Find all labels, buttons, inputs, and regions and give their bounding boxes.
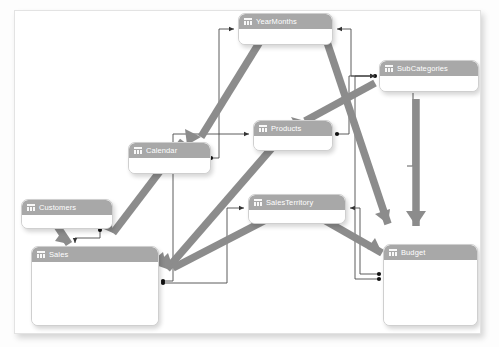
- table-header-sales: Sales: [32, 247, 158, 262]
- table-header-subcategories: SubCategories: [380, 61, 478, 76]
- table-icon: [259, 125, 267, 132]
- table-card-customers[interactable]: Customers: [21, 199, 113, 229]
- table-card-products[interactable]: Products: [253, 120, 333, 151]
- table-name-calendar: Calendar: [146, 147, 177, 155]
- table-body-salesterritory: [249, 210, 345, 223]
- table-card-budget[interactable]: Budget: [383, 244, 478, 326]
- table-icon: [244, 18, 252, 25]
- filter-arrow-group: [55, 40, 416, 269]
- table-body-customers: [22, 215, 112, 228]
- table-name-budget: Budget: [401, 249, 425, 257]
- table-header-products: Products: [254, 121, 332, 136]
- table-name-customers: Customers: [39, 204, 76, 212]
- table-header-salesterritory: SalesTerritory: [249, 195, 345, 210]
- table-body-sales: [32, 262, 158, 325]
- table-body-subcategories: [380, 76, 478, 91]
- table-card-salesterritory[interactable]: SalesTerritory: [248, 194, 346, 224]
- filter-arrow-yearmonths-calendar[interactable]: [201, 40, 261, 137]
- arrowhead-budget-b: [406, 211, 426, 226]
- table-name-subcategories: SubCategories: [397, 65, 448, 73]
- table-name-yearmonths: YearMonths: [256, 18, 297, 26]
- diagram-root: YearMonths SubCategories Products: [0, 0, 499, 347]
- table-body-calendar: [129, 158, 210, 173]
- table-icon: [385, 65, 393, 72]
- table-header-calendar: Calendar: [129, 143, 210, 158]
- relationship-customers-sales[interactable]: [75, 230, 100, 243]
- table-header-budget: Budget: [384, 245, 477, 260]
- table-body-products: [254, 136, 332, 150]
- table-card-calendar[interactable]: Calendar: [128, 142, 211, 174]
- table-body-yearmonths: [239, 29, 332, 44]
- table-icon: [27, 204, 35, 211]
- table-card-sales[interactable]: Sales: [31, 246, 159, 326]
- table-card-subcategories[interactable]: SubCategories: [379, 60, 479, 92]
- model-canvas[interactable]: YearMonths SubCategories Products: [14, 10, 481, 334]
- table-icon: [254, 199, 262, 206]
- table-body-budget: [384, 260, 477, 325]
- table-header-yearmonths: YearMonths: [239, 14, 332, 29]
- relationship-subcategories-guide: [407, 93, 413, 166]
- table-name-products: Products: [271, 125, 301, 133]
- relationship-sales-salesterritory[interactable]: [163, 208, 244, 283]
- table-icon: [134, 147, 142, 154]
- table-name-sales: Sales: [49, 251, 68, 259]
- table-name-salesterritory: SalesTerritory: [266, 199, 313, 207]
- table-icon: [389, 249, 397, 256]
- relationship-subcategories-yearmonths[interactable]: [337, 29, 375, 76]
- table-icon: [37, 251, 45, 258]
- table-header-customers: Customers: [22, 200, 112, 215]
- table-card-yearmonths[interactable]: YearMonths: [238, 13, 333, 45]
